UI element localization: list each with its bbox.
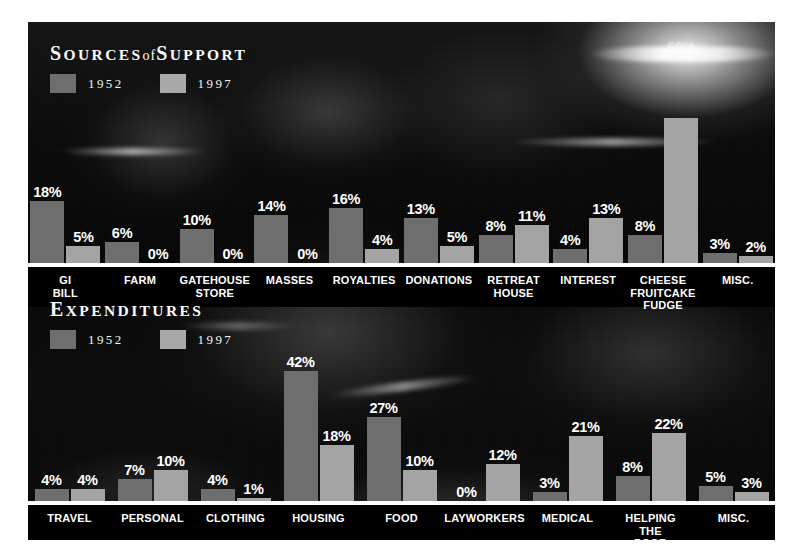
expenditures-title-xpenditures: XPENDITURES <box>66 302 204 319</box>
bar-value-label: 21% <box>571 419 599 435</box>
sources-legend: 1952 1997 <box>50 74 233 93</box>
legend-swatch-1997 <box>160 330 186 349</box>
expenditures-chart-title: EXPENDITURES <box>50 298 203 321</box>
bar-group: 8%11% <box>476 118 551 263</box>
bar-rect-1952 <box>553 249 587 263</box>
bar-1997: 22% <box>652 356 686 501</box>
bar-value-label: 4% <box>560 232 580 248</box>
bar-value-label: 16% <box>332 191 360 207</box>
bar-value-label: 4% <box>77 472 97 488</box>
category-label: MISC. <box>692 505 775 540</box>
bar-group: 4%1% <box>194 356 277 501</box>
bar-1952: 4% <box>553 118 587 263</box>
bar-rect-1997 <box>739 256 773 263</box>
bar-1997: 0% <box>141 118 175 263</box>
bar-1952: 6% <box>105 118 139 263</box>
bar-value-label: 6% <box>112 225 132 241</box>
bar-1952: 14% <box>254 118 288 263</box>
bar-rect-1997 <box>515 225 549 263</box>
bar-1997: 10% <box>403 356 437 501</box>
bar-rect-1997 <box>569 436 603 501</box>
bar-group: 0%12% <box>443 356 526 501</box>
bar-1952: 4% <box>35 356 69 501</box>
bar-group: 14%0% <box>252 118 327 263</box>
sources-title-ources: OURCES <box>64 46 143 63</box>
bar-1952: 3% <box>703 118 737 263</box>
bar-rect-1952 <box>118 479 152 501</box>
bar-value-label: 2% <box>745 239 765 255</box>
bar-value-label: 7% <box>124 462 144 478</box>
bar-group: 4%4% <box>28 356 111 501</box>
legend-swatch-1952 <box>50 74 76 93</box>
bar-rect-1952 <box>479 235 513 263</box>
bar-rect-1952 <box>367 417 401 501</box>
bar-rect-1997 <box>440 246 474 263</box>
bar-value-label: 5% <box>447 229 467 245</box>
bar-value-label: 14% <box>257 198 285 214</box>
infographic-poster: SOURCESofSUPPORT 1952 1997 18%5%6%0%10%0… <box>28 22 775 540</box>
bar-group: 16%4% <box>327 118 402 263</box>
bar-1952: 8% <box>616 356 650 501</box>
bar-group: 5%3% <box>692 356 775 501</box>
bar-1952: 4% <box>201 356 235 501</box>
bar-value-label: 0% <box>223 246 243 262</box>
bar-value-label: 8% <box>485 218 505 234</box>
bar-1997: 4% <box>365 118 399 263</box>
bar-value-label: 0% <box>148 246 168 262</box>
sources-title-block: SOURCESofSUPPORT <box>50 42 247 65</box>
bar-rect-1997 <box>403 470 437 501</box>
bar-rect-1997 <box>486 464 520 501</box>
legend-swatch-1997 <box>160 74 186 93</box>
bar-value-label: 27% <box>369 400 397 416</box>
sources-plot-area: 18%5%6%0%10%0%14%0%16%4%13%5%8%11%4%13%8… <box>28 118 775 263</box>
bar-group: 13%5% <box>402 118 477 263</box>
bar-value-label: 12% <box>488 447 516 463</box>
bar-1952: 3% <box>533 356 567 501</box>
bar-value-label: 13% <box>407 201 435 217</box>
bar-1952: 5% <box>699 356 733 501</box>
category-label: TRAVEL <box>28 505 111 540</box>
bar-rect-1952 <box>533 492 567 501</box>
bar-value-label: 5% <box>73 229 93 245</box>
bar-rect-1997 <box>652 433 686 501</box>
bar-value-label: 0% <box>297 246 317 262</box>
bar-value-label: 10% <box>156 453 184 469</box>
bar-rect-1997 <box>66 246 100 263</box>
bar-value-label: 3% <box>539 475 559 491</box>
bar-group: 4%13% <box>551 118 626 263</box>
sources-title-s1: S <box>50 42 64 64</box>
bar-value-label: 4% <box>207 472 227 488</box>
bar-1997: 0% <box>290 118 324 263</box>
bar-1997: 4% <box>71 356 105 501</box>
bar-rect-1952 <box>284 371 318 501</box>
bar-1997: 18% <box>320 356 354 501</box>
bar-value-label: 5% <box>705 469 725 485</box>
bar-rect-1997 <box>320 445 354 501</box>
bar-group: 8%60% <box>626 118 701 263</box>
category-label: HOUSING <box>277 505 360 540</box>
bar-group: 6%0% <box>103 118 178 263</box>
expenditures-category-axis: TRAVELPERSONALCLOTHINGHOUSINGFOODLAYWORK… <box>28 505 775 540</box>
bar-value-label: 18% <box>322 428 350 444</box>
expenditures-title-block: EXPENDITURES <box>50 298 203 321</box>
bar-rect-1952 <box>703 253 737 263</box>
bar-1997: 60% <box>664 118 698 263</box>
expenditures-category-labels: TRAVELPERSONALCLOTHINGHOUSINGFOODLAYWORK… <box>28 505 775 540</box>
bar-value-label: 42% <box>286 354 314 370</box>
bar-rect-1952 <box>699 486 733 502</box>
legend-entry-1952: 1952 <box>50 74 124 93</box>
bar-value-label: 4% <box>372 232 392 248</box>
bar-value-label: 8% <box>635 218 655 234</box>
bar-1997: 2% <box>739 118 773 263</box>
expenditures-legend: 1952 1997 <box>50 330 233 349</box>
category-label: PERSONAL <box>111 505 194 540</box>
bar-1952: 0% <box>450 356 484 501</box>
expenditures-plot-area: 4%4%7%10%4%1%42%18%27%10%0%12%3%21%8%22%… <box>28 356 775 501</box>
expenditures-title-e: E <box>50 298 66 320</box>
bar-1997: 1% <box>237 356 271 501</box>
category-label: CLOTHING <box>194 505 277 540</box>
bar-rect-1952 <box>404 218 438 263</box>
bar-1952: 18% <box>30 118 64 263</box>
bar-value-label: 18% <box>33 184 61 200</box>
bar-rect-1997 <box>664 118 698 263</box>
